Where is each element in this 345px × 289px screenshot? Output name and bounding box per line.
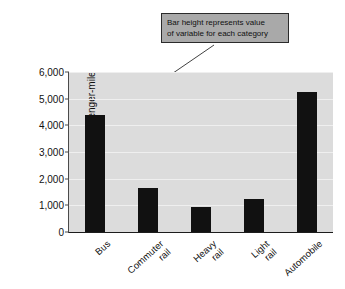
y-tick-label: 0: [58, 227, 64, 238]
bar: [244, 199, 264, 232]
annotation-callout: Bar height represents value of variable …: [161, 13, 289, 43]
annotation-line-2: of variable for each category: [167, 28, 284, 39]
y-tick-label: 2,000: [39, 173, 64, 184]
plot-area: BTU per passenger-mile 01,0002,0003,0004…: [68, 72, 333, 233]
bar: [191, 207, 211, 232]
y-tick-label: 6,000: [39, 67, 64, 78]
bar: [297, 92, 317, 232]
bar-series: [69, 72, 333, 232]
y-tick-label: 5,000: [39, 93, 64, 104]
x-tick-label: Lightrail: [244, 238, 279, 272]
annotation-line-1: Bar height represents value: [167, 17, 284, 28]
x-tick-label: Automobile: [281, 238, 324, 278]
x-tick-label: Commuterrail: [125, 238, 173, 284]
y-tick-label: 1,000: [39, 200, 64, 211]
y-tick-label: 3,000: [39, 147, 64, 158]
y-tick-label: 4,000: [39, 120, 64, 131]
bar: [85, 115, 105, 232]
x-tick-label: Bus: [93, 238, 113, 257]
x-tick-label: Heavyrail: [191, 238, 226, 272]
bar: [138, 188, 158, 232]
bar-chart-figure: Bar height represents value of variable …: [0, 0, 345, 289]
